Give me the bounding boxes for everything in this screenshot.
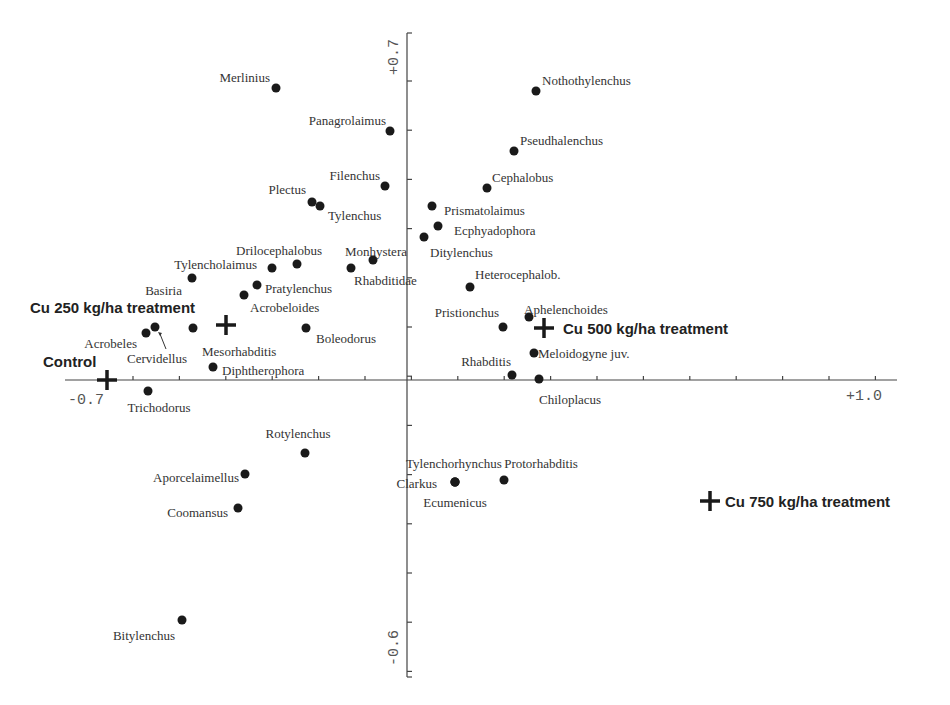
- species-point: Acrobeles: [84, 329, 150, 352]
- species-label: Monhystera: [345, 244, 407, 259]
- species-point: Coomansus: [167, 504, 242, 521]
- species-label: Tylenchorhynchus: [406, 456, 502, 471]
- species-point: Mesorhabditis: [189, 324, 277, 360]
- species-label: Ecphyadophora: [454, 223, 536, 238]
- species-point: Meloidogyne juv.: [530, 346, 630, 361]
- species-label: Rhabditis: [461, 354, 511, 369]
- species-label: Chiloplacus: [539, 392, 601, 407]
- treatment-label: Control: [43, 353, 96, 370]
- species-point: Clarkus: [397, 476, 460, 491]
- species-point: Nothothylenchus: [532, 73, 631, 96]
- species-point: Filenchus: [329, 168, 389, 191]
- point-marker: [499, 323, 508, 332]
- species-label: Trichodorus: [127, 400, 190, 415]
- species-point: Aporcelaimellus: [153, 470, 249, 486]
- species-point: Pratylenchus: [253, 281, 333, 297]
- species-label: Basiria: [145, 283, 182, 298]
- point-marker: [142, 329, 151, 338]
- species-label: Pratylenchus: [265, 281, 332, 296]
- point-marker: [316, 202, 325, 211]
- species-point: Plectus: [268, 182, 316, 207]
- point-marker: [508, 371, 517, 380]
- treatment-marker: Cu 500 kg/ha treatment: [534, 318, 728, 338]
- species-point: Rhabditis: [461, 354, 516, 380]
- species-point: Tylenchus: [316, 202, 382, 224]
- point-marker: [466, 283, 475, 292]
- point-marker: [268, 264, 277, 273]
- treatment-marker: Control: [43, 353, 117, 390]
- y-axis-ticks: [407, 81, 412, 671]
- point-marker: [532, 87, 541, 96]
- species-point: Cephalobus: [483, 170, 554, 193]
- species-point: Panagrolaimus: [309, 113, 395, 136]
- point-marker: [234, 504, 243, 513]
- species-label: Heterocephalob.: [475, 267, 561, 282]
- point-marker: [151, 323, 160, 332]
- species-label: Rotylenchus: [266, 426, 331, 441]
- species-label: Pseudhalenchus: [520, 133, 603, 148]
- species-point: Basiria: [145, 274, 196, 299]
- point-marker: [253, 281, 262, 290]
- species-point: Chiloplacus: [535, 375, 602, 408]
- point-marker: [420, 233, 429, 242]
- species-point: Protorhabditis: [500, 456, 578, 485]
- species-label: Tylencholaimus: [174, 257, 257, 272]
- species-label: Cervidellus: [127, 351, 187, 366]
- species-point: Prismatolaimus: [428, 202, 525, 219]
- species-label: Nothothylenchus: [542, 73, 631, 88]
- species-point: Diphtherophora: [209, 363, 305, 379]
- point-marker: [144, 387, 153, 396]
- species-label: Mesorhabditis: [202, 344, 276, 359]
- species-label: Plectus: [268, 182, 306, 197]
- species-label: Prismatolaimus: [444, 203, 525, 218]
- point-marker: [240, 291, 249, 300]
- arrowhead-icon: [158, 332, 162, 336]
- x-axis-min-label: -0.7: [68, 392, 104, 409]
- point-marker: [301, 449, 310, 458]
- species-point: Pseudhalenchus: [510, 133, 604, 156]
- species-label: Pristionchus: [435, 305, 499, 320]
- point-marker: [178, 616, 187, 625]
- species-point: Pristionchus: [435, 305, 508, 332]
- species-label: Cephalobus: [492, 170, 553, 185]
- point-marker: [483, 184, 492, 193]
- species-label: Panagrolaimus: [309, 113, 386, 128]
- treatment-marker: Cu 250 kg/ha treatment: [30, 299, 236, 335]
- species-label: Clarkus: [397, 476, 437, 491]
- species-label: Rhabditidae: [354, 273, 417, 288]
- point-marker: [293, 260, 302, 269]
- species-label: Protorhabditis: [504, 456, 578, 471]
- species-label: Drilocephalobus: [236, 243, 322, 258]
- species-point: Monhystera: [345, 244, 407, 265]
- species-point: Aphelenchoides: [524, 302, 608, 322]
- y-axis-max-label: +0.7: [386, 39, 403, 75]
- point-marker: [241, 470, 250, 479]
- species-label: Boleodorus: [316, 331, 376, 346]
- y-axis-min-label: -0.6: [386, 630, 403, 666]
- species-point: Bitylenchus: [113, 616, 187, 644]
- species-points: MerliniusNothothylenchusPanagrolaimusPse…: [84, 70, 631, 643]
- species-label: Aporcelaimellus: [153, 470, 239, 485]
- point-marker: [434, 222, 443, 231]
- ordination-biplot: -0.7 +1.0 +0.7 -0.6 MerliniusNothothylen…: [0, 0, 950, 705]
- point-marker: [500, 476, 509, 485]
- species-point: Tylencholaimus: [174, 257, 301, 272]
- species-label: Tylenchus: [328, 208, 381, 223]
- species-point: Trichodorus: [127, 387, 190, 416]
- species-label: Diphtherophora: [222, 363, 305, 378]
- species-label: Aphelenchoides: [524, 302, 608, 317]
- species-point: Rotylenchus: [266, 426, 331, 458]
- point-marker: [347, 264, 356, 273]
- species-label: Ecumenicus: [423, 495, 487, 510]
- species-point: Heterocephalob.: [466, 267, 561, 292]
- point-marker: [428, 202, 437, 211]
- point-marker: [386, 127, 395, 136]
- species-label: Merlinius: [219, 70, 270, 85]
- point-marker: [381, 182, 390, 191]
- x-axis-max-label: +1.0: [846, 388, 882, 405]
- species-label: Ditylenchus: [430, 245, 493, 260]
- species-label: Bitylenchus: [113, 628, 175, 643]
- species-label: Acrobeles: [84, 336, 137, 351]
- point-marker: [535, 375, 544, 384]
- species-point: Ecphyadophora: [434, 222, 536, 239]
